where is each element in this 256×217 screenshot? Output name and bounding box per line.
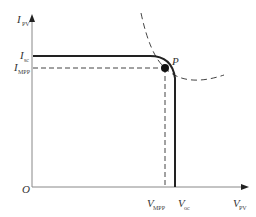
origin-label: O [22,183,30,195]
iv-curve [33,56,175,187]
mpp-point [161,64,169,72]
y-axis-label-sub: PV [22,21,30,27]
x-axis-arrow [241,184,249,190]
iv-curve-diagram: P I PV I sc I MPP O V MPP V oc V PV [0,0,256,217]
impp-label-sub: MPP [18,69,31,75]
vmpp-label-sub: MPP [153,205,166,211]
point-label: P [171,55,179,67]
power-curve [141,13,224,80]
voc-label-sub: oc [184,205,190,211]
x-axis-label-sub: PV [239,205,247,211]
isc-label-sub: sc [24,57,29,63]
y-axis-arrow [29,14,35,22]
